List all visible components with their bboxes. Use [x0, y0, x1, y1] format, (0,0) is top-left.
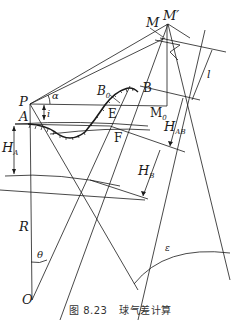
label-B: B: [143, 81, 152, 95]
label-l: l: [207, 68, 211, 81]
label-H-B: HB: [137, 163, 155, 180]
level-curve-E: [50, 129, 150, 134]
level-line-HB: [90, 180, 148, 199]
label-E: E: [108, 107, 117, 121]
label-F: F: [114, 131, 122, 145]
epsilon-arc: [134, 252, 230, 284]
theta-arc: [31, 260, 47, 263]
label-M-prime: M′: [162, 8, 179, 23]
level-line-HB-bottom: [0, 190, 145, 200]
spherical-refraction-diagram: M M′ P A α i B B0 E F M0 l HA HAB HB R θ…: [0, 0, 241, 322]
line-Mprime-to-right: [168, 24, 230, 280]
figure-number: 图 8.23: [69, 302, 107, 317]
figure-caption: 图 8.23球气差计算: [0, 302, 241, 317]
diagram-canvas: M M′ P A α i B B0 E F M0 l HA HAB HB R θ…: [0, 0, 241, 322]
vertical-R: [30, 104, 32, 300]
label-H-A: HA: [1, 140, 18, 157]
label-alpha: α: [52, 90, 59, 101]
label-M: M: [145, 15, 160, 30]
label-i: i: [47, 108, 50, 119]
line-Mprime-to-B: [168, 24, 190, 38]
label-B0: B0: [96, 84, 111, 100]
label-A: A: [18, 109, 28, 124]
label-R: R: [18, 219, 29, 234]
arrowheads: [12, 105, 173, 196]
alpha-arc: [48, 95, 50, 104]
label-P: P: [18, 94, 28, 109]
label-H-AB: HAB: [163, 119, 186, 136]
figure-title: 球气差计算: [119, 302, 172, 317]
label-epsilon: ε: [165, 243, 170, 253]
level-line-top: [160, 38, 226, 52]
label-theta: θ: [37, 249, 43, 260]
horizontal-through-P: [30, 104, 167, 106]
